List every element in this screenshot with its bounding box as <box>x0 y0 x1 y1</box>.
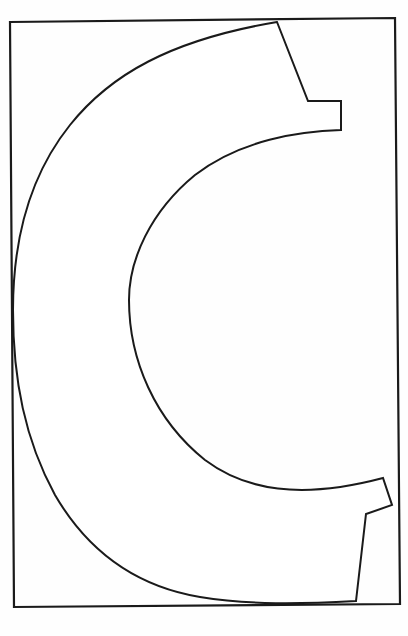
letter-c-figure <box>0 0 408 636</box>
letter-c-outline <box>13 22 392 603</box>
page <box>0 0 408 636</box>
